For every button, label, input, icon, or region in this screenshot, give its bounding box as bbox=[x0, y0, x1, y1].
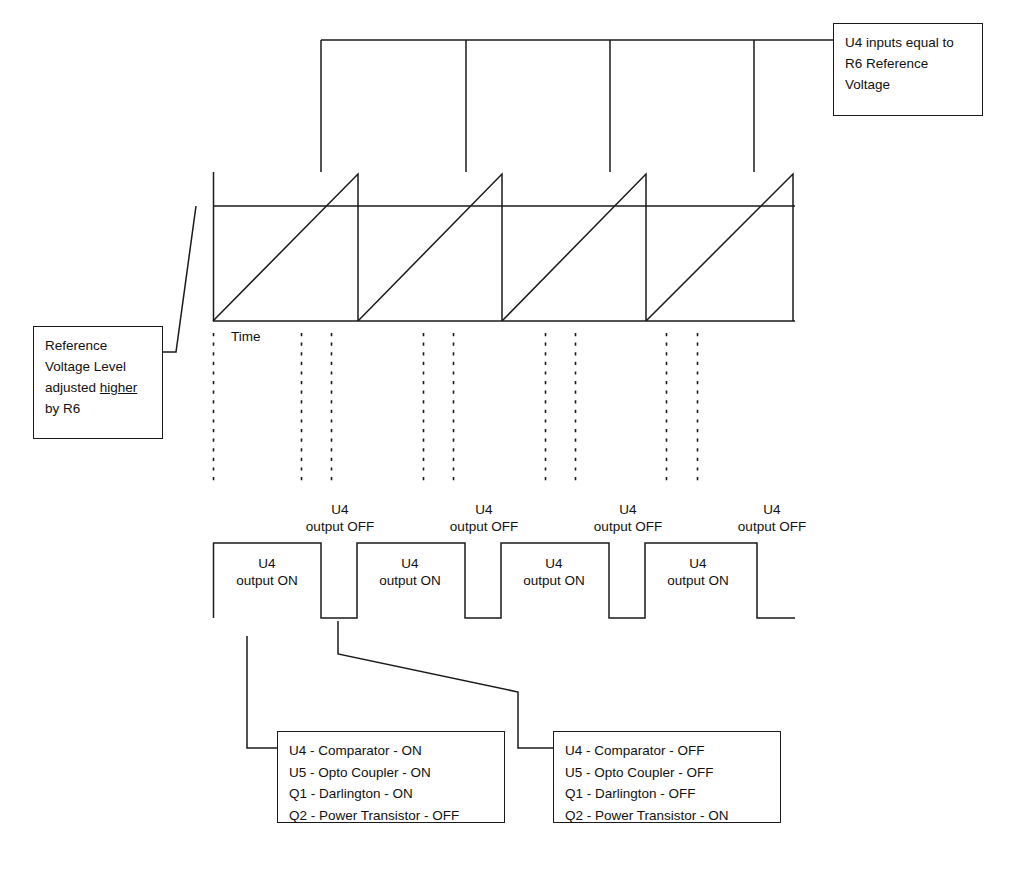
on-label-line-2: output ON bbox=[379, 573, 441, 588]
on-state-leader bbox=[247, 636, 277, 748]
callout-line: U4 - Comparator - OFF bbox=[565, 740, 770, 762]
diagram-root: U4 inputs equal to R6 Reference Voltage … bbox=[0, 0, 1012, 871]
callout-line: Reference bbox=[45, 335, 152, 356]
time-axis-label: Time bbox=[231, 329, 261, 344]
higher-emphasis: higher bbox=[100, 380, 138, 395]
off-label-line-1: U4 bbox=[331, 502, 348, 517]
off-label-line-2: output OFF bbox=[594, 519, 662, 534]
adjusted-prefix: adjusted bbox=[45, 380, 100, 395]
sawtooth-plot bbox=[213, 172, 795, 321]
square-wave-off-label: U4 output OFF bbox=[738, 502, 806, 535]
callout-line: Q1 - Darlington - ON bbox=[289, 783, 494, 805]
dotted-guides bbox=[214, 333, 698, 483]
square-wave-off-label: U4 output OFF bbox=[450, 502, 518, 535]
off-label-line-2: output OFF bbox=[306, 519, 374, 534]
callout-line: Q2 - Power Transistor - ON bbox=[565, 805, 770, 827]
crossing-marker-group bbox=[321, 40, 833, 172]
off-label-line-1: U4 bbox=[475, 502, 492, 517]
on-label-line-1: U4 bbox=[545, 556, 562, 571]
on-label-line-2: output ON bbox=[236, 573, 298, 588]
callout-line: U5 - Opto Coupler - OFF bbox=[565, 762, 770, 784]
callout-line: Voltage bbox=[845, 74, 972, 95]
callout-on-state-components: U4 - Comparator - ON U5 - Opto Coupler -… bbox=[277, 731, 505, 823]
sawtooth-ramp-4 bbox=[646, 174, 793, 321]
sawtooth-ramp-1 bbox=[213, 174, 358, 321]
off-label-line-1: U4 bbox=[619, 502, 636, 517]
square-wave-on-label: U4 output ON bbox=[379, 556, 441, 589]
callout-line-adjusted-higher: adjusted higher bbox=[45, 377, 152, 398]
callout-line: R6 Reference bbox=[845, 53, 972, 74]
off-state-leader bbox=[338, 621, 553, 748]
callout-off-state-components: U4 - Comparator - OFF U5 - Opto Coupler … bbox=[553, 731, 781, 823]
callout-line: U4 - Comparator - ON bbox=[289, 740, 494, 762]
callout-line: Q1 - Darlington - OFF bbox=[565, 783, 770, 805]
off-label-line-2: output OFF bbox=[450, 519, 518, 534]
callout-line: U5 - Opto Coupler - ON bbox=[289, 762, 494, 784]
square-wave-on-label: U4 output ON bbox=[236, 556, 298, 589]
reference-voltage-leader bbox=[163, 206, 196, 352]
on-label-line-1: U4 bbox=[258, 556, 275, 571]
square-wave-on-label: U4 output ON bbox=[667, 556, 729, 589]
off-label-line-1: U4 bbox=[763, 502, 780, 517]
on-label-line-2: output ON bbox=[667, 573, 729, 588]
on-label-line-1: U4 bbox=[401, 556, 418, 571]
callout-u4-inputs-equal: U4 inputs equal to R6 Reference Voltage bbox=[833, 23, 983, 116]
off-label-line-2: output OFF bbox=[738, 519, 806, 534]
square-wave-off-label: U4 output OFF bbox=[306, 502, 374, 535]
callout-reference-voltage-level: Reference Voltage Level adjusted higher … bbox=[33, 326, 163, 439]
callout-line: by R6 bbox=[45, 398, 152, 419]
on-label-line-1: U4 bbox=[689, 556, 706, 571]
square-wave-off-label: U4 output OFF bbox=[594, 502, 662, 535]
square-wave-on-label: U4 output ON bbox=[523, 556, 585, 589]
callout-line: Q2 - Power Transistor - OFF bbox=[289, 805, 494, 827]
callout-line: Voltage Level bbox=[45, 356, 152, 377]
sawtooth-ramp-2 bbox=[358, 174, 502, 321]
callout-line: U4 inputs equal to bbox=[845, 32, 972, 53]
on-label-line-2: output ON bbox=[523, 573, 585, 588]
sawtooth-ramp-3 bbox=[502, 174, 646, 321]
